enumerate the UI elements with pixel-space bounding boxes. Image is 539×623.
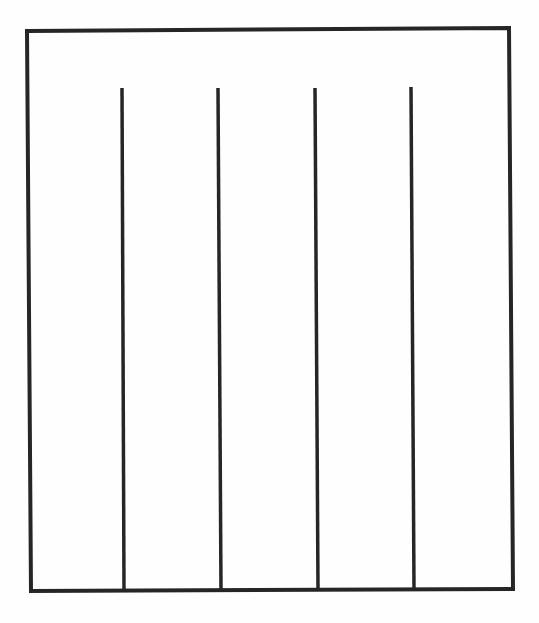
vertical-divider-line-3 — [315, 88, 318, 589]
vertical-dividers — [122, 87, 414, 590]
vertical-divider-line-1 — [122, 88, 124, 590]
diagram-svg — [0, 0, 539, 623]
diagram-canvas — [0, 0, 539, 623]
vertical-divider-line-2 — [218, 88, 221, 590]
vertical-divider-line-4 — [411, 87, 414, 589]
outer-frame-rectangle — [27, 28, 513, 591]
